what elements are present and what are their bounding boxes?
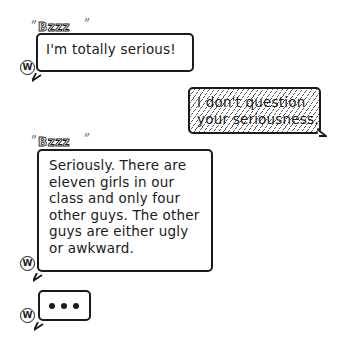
message-bubble-outgoing: I don't question your seriousness. bbox=[188, 87, 321, 134]
typing-dots-icon bbox=[40, 292, 89, 309]
message-text: Seriously. There are eleven girls in our… bbox=[39, 151, 211, 256]
vibration-marks-left-icon: 〃 bbox=[30, 19, 38, 27]
avatar-w: W bbox=[20, 256, 35, 271]
typing-indicator-bubble bbox=[38, 290, 91, 321]
buzz-text: Bzzz bbox=[38, 136, 70, 148]
message-bubble-incoming: Seriously. There are eleven girls in our… bbox=[37, 149, 213, 272]
avatar-w: W bbox=[20, 308, 35, 323]
message-text: I'm totally serious! bbox=[38, 35, 192, 58]
vibration-marks-right-icon: 〃 bbox=[83, 17, 91, 25]
bubble-tail bbox=[317, 128, 327, 137]
vibration-marks-right-icon: 〃 bbox=[83, 132, 91, 140]
message-text: I don't question your seriousness. bbox=[190, 89, 319, 127]
message-bubble-incoming: I'm totally serious! bbox=[36, 33, 194, 72]
buzz-text: Bzzz bbox=[38, 21, 70, 33]
vibration-marks-left-icon: 〃 bbox=[30, 134, 38, 142]
